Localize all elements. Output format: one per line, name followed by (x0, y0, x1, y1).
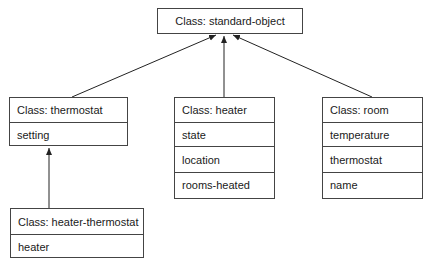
class-room: Class: room temperature thermostat name (322, 97, 423, 199)
slot-location: location (175, 146, 274, 172)
slot-temperature: temperature (323, 122, 422, 146)
slot-heater: heater (11, 234, 143, 258)
class-thermostat: Class: thermostat setting (9, 97, 128, 146)
slot-rooms-heated: rooms-heated (175, 172, 274, 197)
class-title: Class: thermostat (10, 98, 127, 122)
class-title: Class: room (323, 98, 422, 122)
class-title: Class: heater-thermostat (11, 209, 143, 234)
class-heater: Class: heater state location rooms-heate… (174, 97, 275, 199)
class-title: Class: standard-object (175, 15, 284, 27)
slot-name: name (323, 172, 422, 197)
arrow-thermostat-to-standard-object (72, 35, 216, 97)
class-heater-thermostat: Class: heater-thermostat heater (10, 208, 144, 258)
slot-setting: setting (10, 122, 127, 146)
slot-thermostat: thermostat (323, 146, 422, 172)
class-standard-object: Class: standard-object (157, 8, 303, 34)
arrow-room-to-standard-object (233, 35, 372, 97)
class-title: Class: heater (175, 98, 274, 122)
slot-state: state (175, 122, 274, 146)
